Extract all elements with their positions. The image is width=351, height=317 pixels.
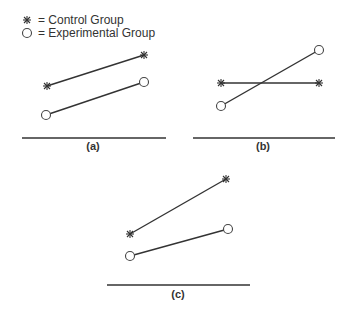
legend-experimental-label: = Experimental Group	[38, 26, 155, 40]
legend: = Control Group = Experimental Group	[23, 13, 156, 40]
circle-icon	[23, 29, 32, 38]
asterisk-icon	[217, 79, 225, 87]
circle-icon	[126, 252, 135, 261]
control-line	[47, 55, 144, 86]
panel-c: (c)	[107, 175, 250, 300]
panel-b: (b)	[193, 46, 335, 153]
experimental-line	[130, 229, 228, 256]
circle-icon	[42, 111, 51, 120]
asterisk-icon	[23, 16, 31, 24]
circle-icon	[315, 46, 324, 55]
control-line	[130, 179, 226, 234]
circle-icon	[217, 102, 226, 111]
legend-control-label: = Control Group	[38, 13, 124, 27]
asterisk-icon	[140, 51, 148, 59]
circle-icon	[224, 225, 233, 234]
asterisk-icon	[126, 230, 134, 238]
asterisk-icon	[315, 79, 323, 87]
panel-label: (c)	[171, 288, 185, 300]
panel-a: (a)	[22, 51, 166, 152]
panel-label: (b)	[256, 140, 270, 152]
asterisk-icon	[222, 175, 230, 183]
experimental-line	[221, 50, 319, 106]
diagram-canvas: = Control Group = Experimental Group (a)	[0, 0, 351, 317]
panel-label: (a)	[86, 140, 100, 152]
asterisk-icon	[43, 82, 51, 90]
experimental-line	[46, 82, 144, 115]
circle-icon	[140, 78, 149, 87]
